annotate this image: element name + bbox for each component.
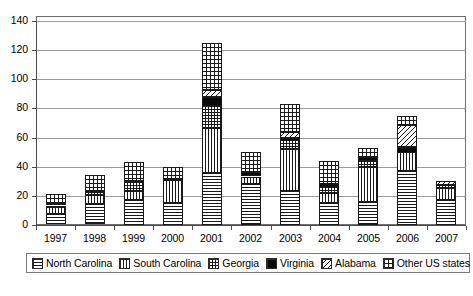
bar-segment-north-carolina[interactable] — [202, 173, 222, 225]
bar-segment-other-us-states[interactable] — [124, 162, 144, 181]
legend-item-other-us-states[interactable]: Other US states — [383, 258, 470, 269]
x-tick-mark — [271, 226, 272, 230]
legend-swatch-solid-black-icon — [266, 258, 277, 269]
legend-item-north-carolina[interactable]: North Carolina — [32, 258, 112, 269]
bar-segment-north-carolina[interactable] — [241, 184, 261, 225]
bar-segment-south-carolina[interactable] — [358, 167, 378, 202]
x-tick-label-1997: 1997 — [36, 233, 75, 244]
bar-2003[interactable] — [280, 104, 300, 225]
bar-segment-alabama[interactable] — [280, 132, 300, 138]
bar-1999[interactable] — [124, 162, 144, 225]
legend-item-alabama[interactable]: Alabama — [321, 258, 376, 269]
bar-segment-south-carolina[interactable] — [397, 152, 417, 171]
bar-segment-alabama[interactable] — [202, 90, 222, 97]
bar-segment-other-us-states[interactable] — [397, 116, 417, 125]
legend-label: South Carolina — [133, 258, 201, 269]
bar-segment-north-carolina[interactable] — [85, 204, 105, 224]
bar-segment-georgia[interactable] — [280, 140, 300, 149]
bar-segment-south-carolina[interactable] — [46, 207, 66, 214]
bar-segment-south-carolina[interactable] — [124, 191, 144, 200]
stacked-bar-chart: 020406080100120140 199719981999200020012… — [0, 0, 473, 296]
bar-segment-alabama[interactable] — [436, 181, 456, 185]
legend-label: Other US states — [397, 258, 470, 269]
bar-segment-virginia[interactable] — [46, 204, 66, 205]
bar-segment-georgia[interactable] — [436, 185, 456, 188]
x-tick-label-1999: 1999 — [114, 233, 153, 244]
y-tick-label: 20 — [0, 190, 28, 200]
x-tick-mark — [310, 226, 311, 230]
x-tick-mark — [466, 226, 467, 230]
bar-segment-north-carolina[interactable] — [319, 203, 339, 225]
bar-2006[interactable] — [397, 116, 417, 225]
legend-label: Virginia — [280, 258, 314, 269]
bar-2002[interactable] — [241, 152, 261, 225]
bar-segment-georgia[interactable] — [358, 161, 378, 167]
bar-segment-other-us-states[interactable] — [319, 161, 339, 184]
legend-swatch-vertical-lines-icon — [119, 258, 130, 269]
legend-item-virginia[interactable]: Virginia — [266, 258, 314, 269]
x-tick-label-2004: 2004 — [310, 233, 349, 244]
gridline — [36, 50, 466, 51]
bar-segment-virginia[interactable] — [397, 147, 417, 153]
x-tick-label-2002: 2002 — [231, 233, 270, 244]
bar-segment-north-carolina[interactable] — [46, 214, 66, 224]
bar-segment-georgia[interactable] — [319, 187, 339, 193]
x-axis-line — [36, 225, 466, 226]
x-tick-label-2003: 2003 — [271, 233, 310, 244]
legend-label: Georgia — [222, 258, 259, 269]
bar-segment-north-carolina[interactable] — [436, 200, 456, 225]
bar-1997[interactable] — [46, 194, 66, 225]
bar-segment-south-carolina[interactable] — [241, 177, 261, 184]
bar-segment-virginia[interactable] — [280, 138, 300, 141]
bar-2000[interactable] — [163, 167, 183, 225]
bar-2004[interactable] — [319, 161, 339, 225]
bar-segment-other-us-states[interactable] — [280, 104, 300, 132]
bar-segment-north-carolina[interactable] — [163, 203, 183, 225]
bar-segment-virginia[interactable] — [319, 184, 339, 187]
bar-2007[interactable] — [436, 181, 456, 225]
x-tick-mark — [388, 226, 389, 230]
bar-segment-virginia[interactable] — [358, 157, 378, 161]
bar-2005[interactable] — [358, 148, 378, 225]
bar-segment-other-us-states[interactable] — [85, 175, 105, 191]
bar-segment-georgia[interactable] — [202, 106, 222, 128]
bar-segment-virginia[interactable] — [124, 181, 144, 182]
y-tick-label: 0 — [0, 219, 28, 229]
bar-segment-virginia[interactable] — [163, 179, 183, 180]
bar-segment-georgia[interactable] — [46, 206, 66, 207]
bar-segment-other-us-states[interactable] — [358, 148, 378, 157]
x-tick-mark — [231, 226, 232, 230]
bar-segment-other-us-states[interactable] — [202, 43, 222, 90]
bar-segment-other-us-states[interactable] — [163, 167, 183, 179]
legend: North CarolinaSouth CarolinaGeorgiaVirgi… — [26, 253, 470, 273]
bar-segment-north-carolina[interactable] — [124, 200, 144, 225]
bar-segment-north-carolina[interactable] — [280, 191, 300, 225]
bar-1998[interactable] — [85, 175, 105, 225]
bar-segment-virginia[interactable] — [241, 172, 261, 176]
legend-item-south-carolina[interactable]: South Carolina — [119, 258, 201, 269]
bar-segment-alabama[interactable] — [397, 125, 417, 147]
legend-swatch-diagonal-lines-icon — [321, 258, 332, 269]
bar-segment-georgia[interactable] — [85, 192, 105, 195]
bar-segment-south-carolina[interactable] — [85, 195, 105, 204]
bar-segment-south-carolina[interactable] — [436, 188, 456, 200]
bar-segment-south-carolina[interactable] — [319, 193, 339, 203]
x-tick-mark — [192, 226, 193, 230]
bar-segment-virginia[interactable] — [85, 191, 105, 192]
x-tick-mark — [36, 226, 37, 230]
bar-segment-virginia[interactable] — [202, 97, 222, 106]
legend-swatch-cross-grid-icon — [208, 258, 219, 269]
bar-segment-georgia[interactable] — [124, 182, 144, 191]
bar-2001[interactable] — [202, 43, 222, 225]
bar-segment-north-carolina[interactable] — [358, 202, 378, 225]
bar-segment-south-carolina[interactable] — [280, 149, 300, 191]
bar-segment-north-carolina[interactable] — [397, 171, 417, 225]
gridline — [36, 79, 466, 80]
x-tick-label-2006: 2006 — [388, 233, 427, 244]
x-tick-mark — [349, 226, 350, 230]
bar-segment-south-carolina[interactable] — [202, 128, 222, 173]
legend-item-georgia[interactable]: Georgia — [208, 258, 259, 269]
bar-segment-other-us-states[interactable] — [241, 152, 261, 172]
bar-segment-other-us-states[interactable] — [46, 194, 66, 204]
bar-segment-south-carolina[interactable] — [163, 180, 183, 203]
